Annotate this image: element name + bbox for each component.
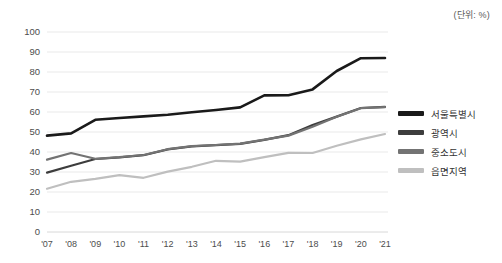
y-axis-tick-label: 10: [29, 206, 40, 217]
legend-swatch-icon: [398, 168, 424, 173]
y-axis-tick-label: 0: [35, 226, 40, 237]
x-axis-tick-label: '07: [41, 239, 53, 249]
y-axis-tick-label: 100: [24, 26, 40, 37]
y-axis-tick-label: 50: [29, 126, 40, 137]
gridlines: [47, 32, 388, 232]
x-axis-tick-label: '11: [138, 239, 149, 249]
x-axis-tick-label: '12: [162, 239, 174, 249]
x-axis-tick-label: '19: [331, 239, 343, 249]
y-axis-tick-labels: 0102030405060708090100: [24, 26, 40, 237]
x-axis-tick-label: '16: [258, 239, 270, 249]
legend-swatch-icon: [398, 130, 424, 135]
legend-item-label: 읍면지역: [431, 164, 467, 178]
x-axis-tick-labels: '07'08'09'10'11'12'13'14'15'16'17'18'19'…: [41, 239, 391, 249]
legend-item-label: 서울특별시: [431, 107, 476, 121]
y-axis-tick-label: 40: [29, 146, 40, 157]
chart-legend: 서울특별시광역시중소도시읍면지역: [398, 104, 502, 180]
x-axis-tick-label: '14: [210, 239, 222, 249]
series-line: [47, 58, 385, 136]
x-axis-tick-label: '20: [355, 239, 367, 249]
x-axis-tick-label: '15: [234, 239, 246, 249]
x-axis-tick-label: '17: [283, 239, 295, 249]
x-axis-tick-label: '10: [114, 239, 126, 249]
legend-item[interactable]: 읍면지역: [398, 161, 502, 180]
y-axis-tick-label: 30: [29, 166, 40, 177]
legend-swatch-icon: [398, 111, 424, 116]
x-axis-tick-label: '21: [379, 239, 391, 249]
x-axis-tick-label: '08: [65, 239, 77, 249]
line-chart: (단위: %) 0102030405060708090100 '07'08'09…: [0, 0, 502, 263]
y-axis-tick-label: 80: [29, 66, 40, 77]
y-axis-tick-label: 20: [29, 186, 40, 197]
y-axis-tick-label: 60: [29, 106, 40, 117]
legend-item[interactable]: 서울특별시: [398, 104, 502, 123]
series-line: [47, 134, 385, 189]
x-axis-tick-label: '09: [89, 239, 101, 249]
x-axis-tick-label: '18: [307, 239, 319, 249]
legend-swatch-icon: [398, 149, 424, 154]
legend-item-label: 광역시: [431, 126, 458, 140]
y-axis-tick-label: 70: [29, 86, 40, 97]
legend-item[interactable]: 중소도시: [398, 142, 502, 161]
legend-item[interactable]: 광역시: [398, 123, 502, 142]
y-axis-tick-label: 90: [29, 46, 40, 57]
x-axis-tick-label: '13: [186, 239, 198, 249]
data-series: [47, 58, 385, 189]
legend-item-label: 중소도시: [431, 145, 467, 159]
